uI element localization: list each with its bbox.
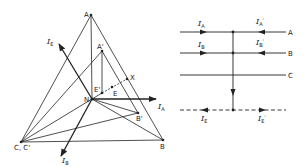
arrow-i-a-in <box>200 30 207 35</box>
label-n: N <box>84 96 89 104</box>
junction-earth <box>232 109 235 112</box>
arrow-fault-down <box>231 89 236 96</box>
junction-a <box>232 31 235 34</box>
point-a <box>90 14 93 17</box>
label-i-a: IA <box>197 19 205 29</box>
phasor-triangle-diagram <box>21 15 163 156</box>
point-b-prime <box>137 112 140 115</box>
label-conductor-a: A <box>288 29 293 37</box>
label-conductor-c: C <box>288 72 293 80</box>
point-x <box>126 78 129 81</box>
label-x: X <box>130 74 135 82</box>
label-c-c-prime: C, C' <box>14 144 30 152</box>
label-i-b-prime: IB' <box>255 38 264 48</box>
line-n-c <box>21 99 92 142</box>
label-i-e-vector: IE <box>46 37 53 47</box>
phasor-diagram-canvas: A A' X E E' N B' C, C' B IE IA IB <box>0 0 306 167</box>
arrow-i-e-prime <box>259 108 266 113</box>
label-i-b-vector: IB <box>61 156 69 166</box>
label-i-b: IB <box>197 40 205 50</box>
label-conductor-b: B <box>288 50 293 58</box>
triangle-a-prime-b-prime-c-prime <box>21 51 138 142</box>
vector-i-b <box>61 99 92 156</box>
point-e <box>111 86 114 89</box>
point-n <box>91 98 94 101</box>
label-e-prime: E' <box>94 86 100 94</box>
label-i-e-prime: IE' <box>257 114 266 124</box>
arrow-i-a-out <box>258 30 265 35</box>
arrow-i-e <box>201 108 208 113</box>
label-i-e: IE <box>200 114 207 124</box>
point-e-prime <box>101 92 104 95</box>
label-b: B <box>160 143 165 151</box>
label-b-prime: B' <box>136 115 143 123</box>
circuit-diagram <box>180 32 286 110</box>
triangle-labels: A A' X E E' N B' C, C' B <box>14 11 165 152</box>
arrow-i-b-out <box>258 51 265 56</box>
line-n-a <box>91 15 92 99</box>
label-e: E <box>113 90 117 98</box>
arrow-i-b-in <box>200 51 207 56</box>
label-a: A <box>84 11 89 19</box>
point-c <box>20 141 23 144</box>
label-i-a-prime: IA' <box>255 17 264 27</box>
label-i-a-vector: IA <box>157 102 165 112</box>
point-b <box>162 139 165 142</box>
junction-b <box>232 52 235 55</box>
label-a-prime: A' <box>97 43 104 51</box>
line-n-b <box>92 99 163 140</box>
vector-i-e <box>59 44 92 99</box>
